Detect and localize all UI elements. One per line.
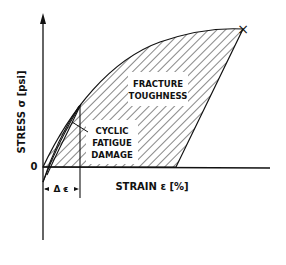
fracture-label-line-2: TOUGHNESS xyxy=(129,91,188,101)
stress-strain-diagram: × Δ ε 0 STRAIN ε [%] STRESS σ [psi] FRAC… xyxy=(0,0,286,265)
fracture-label-line-1: FRACTURE xyxy=(133,79,183,89)
y-axis-arrow-icon xyxy=(40,13,46,24)
delta-strain-label: Δ ε xyxy=(53,184,68,194)
y-axis-label: STRESS σ [psi] xyxy=(16,71,27,154)
x-axis-label: STRAIN ε [%] xyxy=(115,181,188,192)
x-axis xyxy=(43,167,270,168)
cyclic-label-line-3: DAMAGE xyxy=(91,150,133,160)
fracture-point-marker: × xyxy=(237,21,249,37)
cyclic-label-line-2: FATIGUE xyxy=(92,138,132,148)
origin-label: 0 xyxy=(31,161,38,172)
cyclic-label-line-1: CYCLIC xyxy=(95,126,128,136)
